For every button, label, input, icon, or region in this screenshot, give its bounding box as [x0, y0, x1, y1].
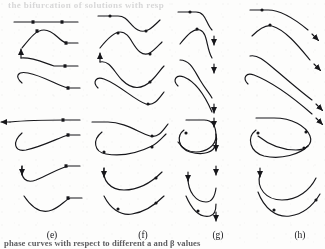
trajectory-curve: [95, 78, 164, 104]
curves-layer: [10, 10, 320, 216]
trajectory-curve: [24, 196, 82, 211]
arrow-head-marker: [314, 64, 320, 70]
dot-marker: [184, 131, 187, 134]
trajectory-curve: [256, 118, 311, 150]
trajectory-curve: [22, 166, 80, 181]
dot-marker: [65, 41, 68, 44]
trajectory-curve: [100, 62, 164, 88]
trajectory-curve: [10, 120, 80, 122]
trajectory-curve: [16, 133, 80, 150]
dot-marker: [314, 198, 317, 201]
dot-marker: [116, 31, 119, 34]
arrows-layer: [1, 34, 322, 221]
markers-layer: [32, 8, 318, 212]
trajectory-curve: [259, 174, 316, 200]
trajectory-panels-svg: [0, 0, 325, 249]
trajectory-curve: [18, 73, 80, 88]
dot-marker: [188, 10, 191, 13]
dot-marker: [36, 29, 39, 32]
trajectory-curve: [180, 60, 212, 98]
trajectory-curve: [180, 30, 212, 58]
trajectory-curve: [178, 120, 216, 152]
arrow-head-marker: [316, 104, 322, 110]
trajectory-curve: [178, 12, 212, 30]
figure-container: the bifurcation of solutions with resp (…: [0, 0, 325, 249]
dot-marker: [67, 86, 70, 89]
dot-marker: [62, 118, 65, 121]
dot-marker: [148, 80, 151, 83]
trajectory-curve: [104, 168, 162, 190]
panel-label-g: (g): [212, 230, 223, 240]
dot-marker: [146, 102, 149, 105]
dot-marker: [102, 150, 105, 153]
trajectory-curve: [104, 196, 164, 214]
trajectory-curve: [250, 10, 308, 30]
dot-marker: [116, 207, 119, 210]
trajectory-curve: [92, 122, 168, 136]
panel-label-e: (e): [47, 230, 58, 240]
dot-marker: [64, 64, 67, 67]
dot-marker: [154, 176, 157, 179]
dot-marker: [108, 14, 111, 17]
dot-marker: [150, 145, 153, 148]
trajectory-curve: [188, 178, 216, 202]
trajectory-curve: [175, 76, 212, 112]
dot-marker: [65, 164, 68, 167]
arrow-head-marker: [316, 118, 322, 124]
trajectory-curve: [100, 32, 162, 54]
dot-marker: [67, 196, 70, 199]
dot-marker: [154, 201, 157, 204]
arrow-head-marker: [312, 34, 318, 40]
dot-marker: [302, 146, 305, 149]
dot-marker: [268, 23, 271, 26]
trajectory-curve: [21, 58, 78, 66]
dot-marker: [195, 27, 198, 30]
dot-marker: [304, 130, 307, 133]
dot-marker: [67, 133, 70, 136]
trajectory-curve: [96, 132, 166, 155]
dot-marker: [32, 20, 35, 23]
dot-marker: [150, 134, 153, 137]
dot-marker: [144, 29, 147, 32]
dot-marker: [148, 52, 151, 55]
figure-caption-clipped: phase curves with respect to different a…: [0, 240, 325, 249]
dot-marker: [272, 208, 275, 211]
trajectory-curve: [252, 25, 310, 60]
dot-marker: [260, 8, 263, 11]
dot-marker: [256, 131, 259, 134]
dot-marker: [61, 20, 64, 23]
trajectory-curve: [22, 30, 78, 48]
trajectory-curve: [245, 74, 312, 114]
trajectory-curve: [98, 16, 160, 31]
dot-marker: [196, 209, 199, 212]
figure-caption-text: phase curves with respect to different a…: [4, 240, 200, 248]
panel-label-h: (h): [294, 230, 305, 240]
panel-label-f: (f): [138, 230, 148, 240]
